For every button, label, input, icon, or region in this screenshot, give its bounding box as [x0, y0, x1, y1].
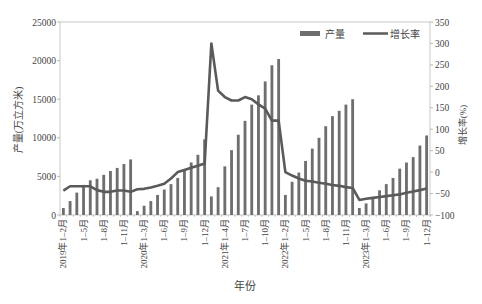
bar — [318, 138, 321, 215]
bar — [237, 135, 240, 215]
bar — [324, 126, 327, 215]
x-tick-label: 1–9月 — [179, 219, 189, 242]
x-tick-label: 1–7月 — [240, 219, 250, 242]
bar — [331, 116, 334, 215]
y-tick-label: 20000 — [32, 56, 56, 66]
x-tick-label: 1–11月 — [119, 219, 129, 246]
bar — [69, 201, 72, 215]
bar — [82, 185, 85, 215]
bar — [291, 182, 294, 215]
bar — [304, 161, 307, 215]
bar — [149, 201, 152, 215]
bar — [398, 169, 401, 215]
y2-tick-label: 250 — [435, 60, 450, 70]
bar — [136, 211, 139, 215]
x-tick-label: 1–6月 — [381, 219, 391, 242]
bar — [176, 178, 179, 215]
x-tick-label: 2019年1–2月 — [57, 219, 68, 269]
bar — [163, 190, 166, 215]
x-axis-title: 年份 — [234, 279, 256, 292]
bar — [190, 163, 193, 216]
bar — [345, 105, 348, 215]
y2-tick-label: 350 — [435, 18, 450, 28]
x-tick-label: 2020年1–3月 — [138, 219, 149, 269]
y2-tick-label: 100 — [435, 125, 450, 135]
bar — [156, 195, 159, 215]
x-tick-label: 1–6月 — [159, 219, 169, 242]
x-tick-label: 1–12月 — [200, 219, 210, 246]
bar — [412, 157, 415, 215]
y-tick-label: 25000 — [32, 18, 56, 28]
x-tick-label: 1–12月 — [422, 219, 432, 246]
x-tick-label: 1–8月 — [321, 219, 331, 242]
x-tick-label: 1–11月 — [341, 219, 351, 246]
x-tick-label: 2021年1–4月 — [219, 219, 230, 269]
bar — [102, 175, 105, 215]
bar — [129, 159, 132, 215]
bar — [371, 198, 374, 215]
bar — [284, 195, 287, 215]
y-tick-label: 5000 — [37, 172, 56, 182]
y-tick-label: 0 — [51, 211, 56, 221]
bar — [351, 99, 354, 215]
bar — [197, 155, 200, 215]
bar — [96, 179, 99, 215]
y-axis-right-title: 增长率(%) — [457, 105, 468, 146]
y2-tick-label: −50 — [435, 189, 450, 199]
x-tick-label: 1–10月 — [260, 219, 270, 246]
chart: 0500010000150002000025000 −100−500501001… — [0, 0, 482, 304]
bar — [405, 163, 408, 216]
x-tick-label: 1–8月 — [99, 219, 109, 242]
x-tick-label: 2022年1–2月 — [279, 219, 290, 269]
y2-tick-label: 50 — [435, 146, 445, 156]
x-tick-label: 2023年1–3月 — [360, 219, 371, 269]
bar — [250, 105, 253, 215]
legend-bar-swatch — [300, 31, 320, 36]
y2-tick-label: 0 — [435, 168, 440, 178]
y2-tick-label: −100 — [435, 211, 455, 221]
legend-line-label: 增长率 — [390, 28, 420, 40]
bar — [143, 206, 146, 215]
bar — [358, 208, 361, 215]
bar — [183, 169, 186, 215]
bar — [223, 166, 226, 215]
bar — [217, 187, 220, 215]
x-axis: 2019年1–2月1–5月1–8月1–11月2020年1–3月1–6月1–9月1… — [57, 215, 431, 269]
bar — [62, 208, 65, 215]
x-tick-label: 1–9月 — [401, 219, 411, 242]
legend-bar-label: 产量 — [325, 28, 345, 40]
bar — [264, 81, 267, 215]
y2-tick-label: 300 — [435, 39, 450, 49]
bar — [385, 184, 388, 215]
x-tick-label: 1–5月 — [301, 219, 311, 242]
left-axis: 0500010000150002000025000 — [32, 18, 60, 221]
y2-tick-label: 150 — [435, 103, 450, 113]
bar — [244, 121, 247, 215]
y-tick-label: 10000 — [32, 133, 56, 143]
right-axis: −100−50050100150200250300350 — [430, 18, 455, 221]
bar — [257, 95, 260, 215]
bar — [378, 190, 381, 215]
bar — [425, 135, 428, 215]
bar — [210, 196, 213, 215]
bar — [75, 193, 78, 215]
bar — [170, 184, 173, 215]
y2-tick-label: 200 — [435, 82, 450, 92]
y-axis-left-title: 产量(万立方米) — [12, 87, 25, 154]
bar — [271, 65, 274, 215]
bar — [365, 203, 368, 215]
bar — [419, 146, 422, 215]
bar — [230, 150, 233, 215]
bar — [338, 111, 341, 215]
legend: 产量 增长率 — [300, 28, 420, 40]
x-tick-label: 1–5月 — [79, 219, 89, 242]
y-tick-label: 15000 — [32, 95, 56, 105]
